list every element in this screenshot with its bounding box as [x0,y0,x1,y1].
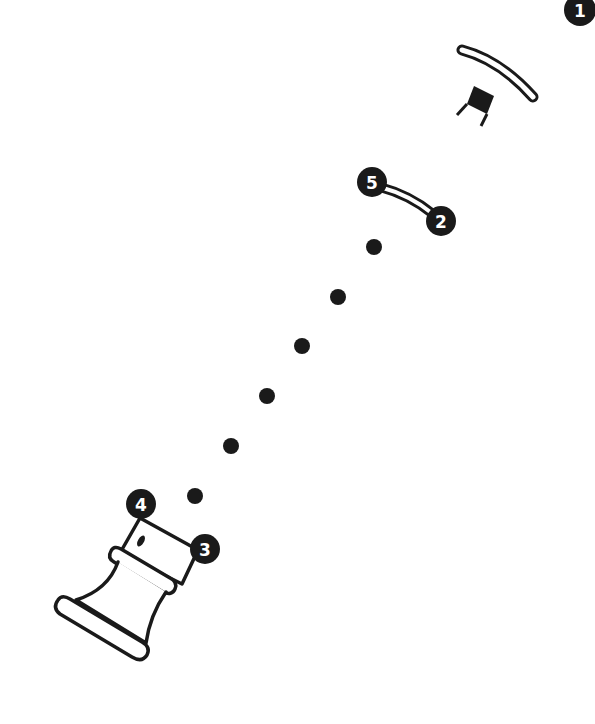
badge-1-label: 1 [574,1,586,21]
badge-4-label: 4 [135,495,147,515]
top-connector [380,187,433,214]
path-dot [223,438,239,454]
target-leg-right [481,114,487,126]
badge-4: 4 [126,489,156,519]
path-dot [187,488,203,504]
target-leg-left [457,104,467,115]
path-dot [330,289,346,305]
path-dot [366,239,382,255]
badge-2-label: 2 [435,212,447,232]
path-dot [294,338,310,354]
target-square-icon [467,86,494,114]
badge-3-label: 3 [199,540,211,560]
badge-2: 2 [426,206,456,236]
diagram-canvas: 1 2 5 4 3 [0,0,595,724]
badge-5-label: 5 [366,173,378,193]
movement-path [187,239,382,504]
rook-piece-icon [55,518,198,660]
badge-5: 5 [357,167,387,197]
badge-3: 3 [190,534,220,564]
badge-1: 1 [564,0,595,26]
path-dot [259,388,275,404]
target-rook-marker [457,50,533,126]
